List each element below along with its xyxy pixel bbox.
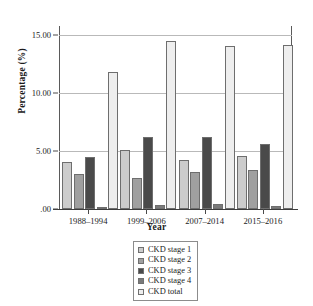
bar-ckd-stage-4 [97,207,107,209]
bar-ckd-stage-1 [237,156,247,209]
y-tick-mark [53,35,58,36]
legend-swatch-icon [138,247,144,253]
bar-group [120,26,176,209]
x-tick-mark [146,209,147,214]
x-axis-baseline [53,209,298,210]
legend-item: CKD total [138,287,191,297]
bar-ckd-total [283,45,293,209]
x-tick-mark [88,209,89,214]
y-tick-mark [53,209,58,210]
legend-item: CKD stage 3 [138,266,191,276]
y-tick-mark [53,151,58,152]
x-tick-mark [263,209,264,214]
legend-item: CKD stage 2 [138,255,191,265]
ckd-prevalence-bar-chart: Percentage (%) .005.0010.0015.001988–199… [0,0,313,306]
chart-legend: CKD stage 1CKD stage 2CKD stage 3CKD sta… [133,241,198,301]
bar-ckd-stage-2 [74,174,84,209]
y-tick-label: .00 [11,204,51,214]
bar-ckd-stage-3 [202,137,212,209]
legend-item: CKD stage 4 [138,276,191,286]
bar-ckd-stage-4 [271,206,281,209]
legend-swatch-icon [138,268,144,274]
plot-area: .005.0010.0015.001988–19941999–20062007–… [59,26,292,209]
legend-swatch-icon [138,258,144,264]
legend-swatch-icon [138,278,144,284]
legend-label: CKD stage 3 [148,267,191,275]
bar-ckd-total [108,72,118,209]
bar-ckd-stage-2 [132,178,142,209]
bar-ckd-stage-3 [85,157,95,209]
bar-ckd-stage-4 [155,205,165,209]
y-tick-label: 15.00 [11,30,51,40]
x-axis-title: Year [0,222,313,232]
bar-group [62,26,118,209]
legend-label: CKD stage 2 [148,256,191,264]
y-tick-label: 5.00 [11,146,51,156]
bar-ckd-total [225,46,235,209]
bar-group [179,26,235,209]
legend-swatch-icon [138,289,144,295]
bar-ckd-stage-1 [62,162,72,209]
x-tick-mark [205,209,206,214]
bar-group [237,26,293,209]
bar-ckd-stage-4 [213,204,223,209]
bar-ckd-stage-2 [248,170,258,209]
y-axis-spine-left [59,26,60,209]
legend-item: CKD stage 1 [138,245,191,255]
bar-ckd-stage-3 [143,137,153,209]
bar-ckd-stage-2 [190,172,200,209]
legend-label: CKD stage 4 [148,277,191,285]
legend-label: CKD stage 1 [148,246,191,254]
bar-ckd-stage-3 [260,144,270,209]
y-tick-label: 10.00 [11,88,51,98]
legend-label: CKD total [148,288,183,296]
bar-ckd-stage-1 [179,160,189,209]
bar-ckd-stage-1 [120,150,130,209]
y-tick-mark [53,93,58,94]
bar-ckd-total [166,41,176,209]
